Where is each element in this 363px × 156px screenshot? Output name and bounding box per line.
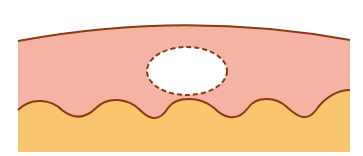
cross-section-diagram xyxy=(0,0,363,156)
cavity-ellipse xyxy=(147,47,227,95)
